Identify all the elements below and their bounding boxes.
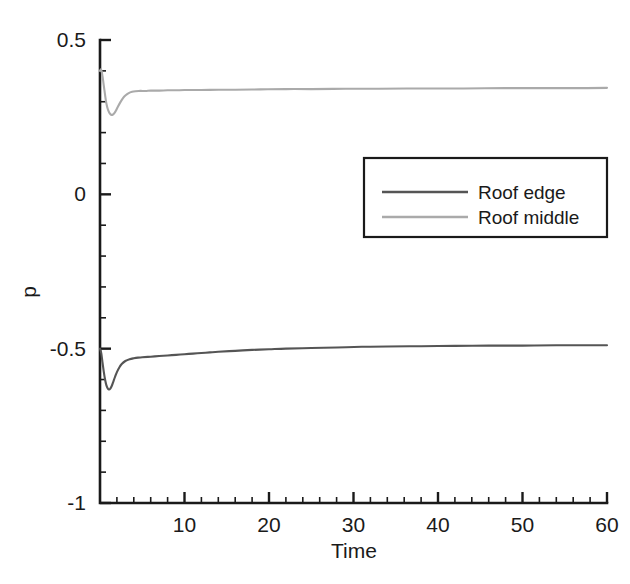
legend-label-roof-middle: Roof middle <box>478 207 579 228</box>
series-line-roof-middle <box>100 69 607 115</box>
y-tick-label: -1 <box>67 491 86 514</box>
x-tick-label: 40 <box>426 513 449 536</box>
x-tick-label: 20 <box>257 513 280 536</box>
y-tick-label: 0 <box>74 182 86 205</box>
x-tick-label: 30 <box>342 513 365 536</box>
axis-ticks <box>100 71 590 503</box>
tick-labels: 0.50-0.5-1102030405060 <box>50 28 619 536</box>
y-tick-label: 0.5 <box>57 28 86 51</box>
axis-spine <box>100 40 607 503</box>
legend: Roof edge Roof middle <box>364 158 607 237</box>
series-line-roof-edge <box>100 345 607 389</box>
legend-label-roof-edge: Roof edge <box>478 182 566 203</box>
y-axis-title: p <box>17 286 40 298</box>
y-tick-label: -0.5 <box>50 337 86 360</box>
x-tick-label: 60 <box>595 513 618 536</box>
chart-figure: 0.50-0.5-1102030405060 Time p Roof edge … <box>0 0 630 584</box>
axes <box>100 40 607 503</box>
x-tick-label: 50 <box>511 513 534 536</box>
x-tick-label: 10 <box>173 513 196 536</box>
x-axis-title: Time <box>331 539 377 562</box>
line-chart: 0.50-0.5-1102030405060 Time p Roof edge … <box>0 0 630 584</box>
